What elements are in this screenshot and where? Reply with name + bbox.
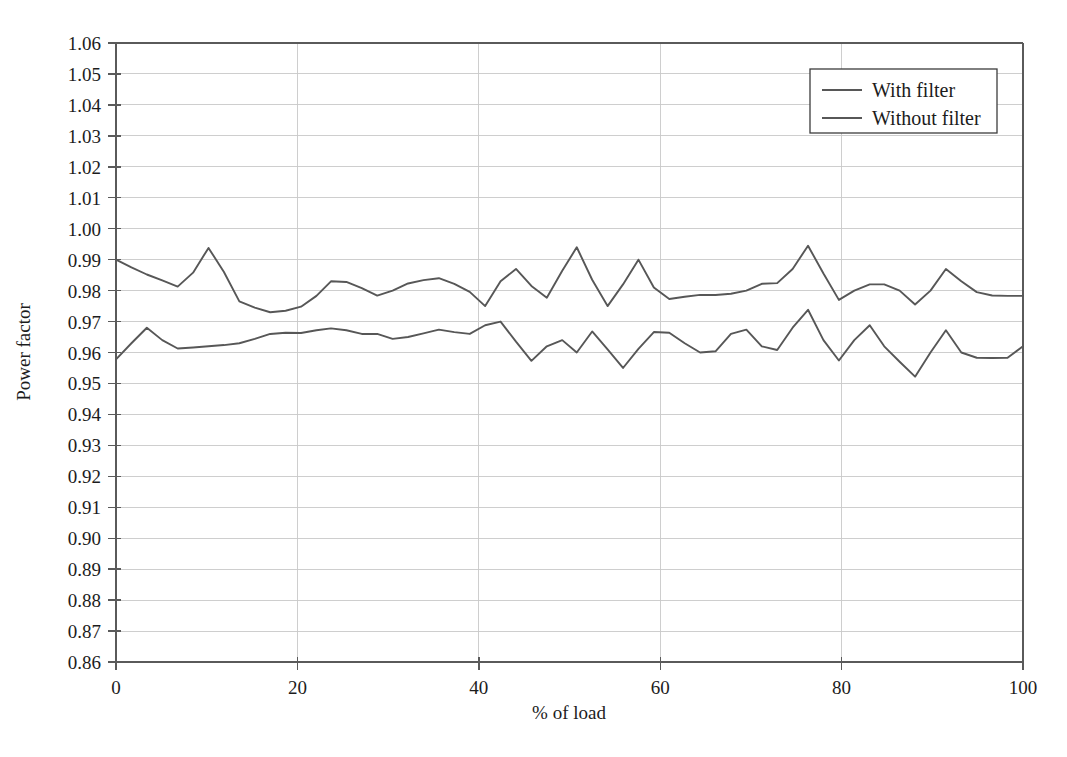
chart-figure: 0.860.870.880.890.900.910.920.930.940.95… bbox=[0, 0, 1067, 757]
y-tick-label: 0.97 bbox=[68, 312, 101, 333]
y-tick-labels-group: 0.860.870.880.890.900.910.920.930.940.95… bbox=[68, 33, 102, 673]
y-tick-label: 0.94 bbox=[68, 404, 102, 425]
x-tick-label: 60 bbox=[651, 677, 670, 698]
y-tick-label: 1.06 bbox=[68, 33, 101, 54]
x-tick-label: 40 bbox=[469, 677, 488, 698]
y-tick-label: 0.93 bbox=[68, 435, 101, 456]
y-tick-label: 0.90 bbox=[68, 528, 101, 549]
y-tick-label: 1.04 bbox=[68, 95, 102, 116]
series-line-with-filter bbox=[116, 246, 1023, 313]
x-axis-title: % of load bbox=[532, 702, 606, 723]
y-tick-label: 1.03 bbox=[68, 126, 101, 147]
y-tick-label: 1.00 bbox=[68, 219, 101, 240]
legend-label-without-filter: Without filter bbox=[872, 107, 981, 129]
x-tick-label: 20 bbox=[288, 677, 307, 698]
tick-marks-group bbox=[108, 43, 1023, 670]
data-series-group bbox=[116, 246, 1023, 377]
y-tick-label: 0.86 bbox=[68, 652, 101, 673]
legend-label-with-filter: With filter bbox=[872, 79, 955, 101]
y-tick-label: 0.95 bbox=[68, 373, 101, 394]
x-tick-label: 80 bbox=[832, 677, 851, 698]
y-tick-label: 1.02 bbox=[68, 157, 101, 178]
y-tick-label: 0.91 bbox=[68, 497, 101, 518]
y-tick-label: 0.96 bbox=[68, 343, 101, 364]
y-tick-label: 0.87 bbox=[68, 621, 101, 642]
y-tick-label: 0.99 bbox=[68, 250, 101, 271]
y-tick-label: 0.92 bbox=[68, 466, 101, 487]
legend[interactable]: With filter Without filter bbox=[810, 69, 997, 133]
x-tick-labels-group: 020406080100 bbox=[111, 677, 1037, 698]
y-tick-label: 0.98 bbox=[68, 281, 101, 302]
x-tick-label: 0 bbox=[111, 677, 121, 698]
y-tick-label: 1.01 bbox=[68, 188, 101, 209]
y-tick-label: 0.89 bbox=[68, 559, 101, 580]
line-chart-svg: 0.860.870.880.890.900.910.920.930.940.95… bbox=[0, 0, 1067, 757]
gridlines-group bbox=[116, 43, 1023, 662]
y-tick-label: 1.05 bbox=[68, 64, 101, 85]
y-axis-title: Power factor bbox=[13, 303, 34, 401]
series-line-without-filter bbox=[116, 310, 1023, 377]
x-tick-label: 100 bbox=[1009, 677, 1038, 698]
y-tick-label: 0.88 bbox=[68, 590, 101, 611]
